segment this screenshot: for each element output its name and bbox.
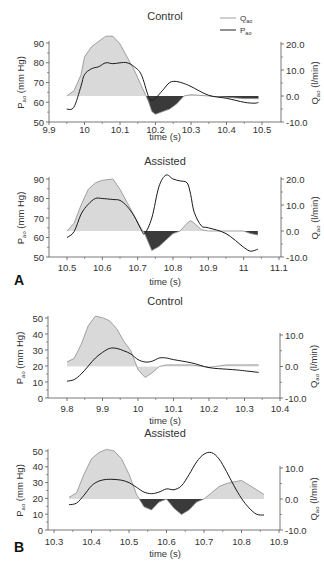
y-tick-label-left: 40: [32, 461, 43, 472]
y-axis-label-right: Qao (l/min): [308, 477, 320, 520]
x-tick-label: 11: [239, 262, 249, 273]
y-tick-label-left: 60: [33, 97, 44, 108]
y-tick-label-left: 10: [32, 377, 43, 388]
y-tick-label-left: 90: [33, 174, 44, 185]
chart-panel-3: Control01020304050-10.00.010.09.89.91010…: [14, 295, 320, 426]
x-tick-label: 10.6: [157, 536, 176, 547]
y-axis-label-right: Qao (l/min): [308, 345, 320, 388]
y-tick-label-left: 40: [32, 329, 43, 340]
legend: QaoPao: [220, 14, 252, 36]
y-tick-label-right: -10.0: [285, 393, 307, 404]
x-tick-label: 10.3: [45, 536, 64, 547]
y-axis-label-left: Pao (mm Hg): [15, 56, 27, 109]
legend-label: Pao: [240, 26, 251, 36]
y-tick-label-right: 0.0: [286, 226, 299, 237]
x-tick-label: 10.4: [271, 403, 290, 414]
x-tick-label: 10.9: [199, 262, 218, 273]
panel-letter-b: B: [14, 539, 24, 555]
x-tick-label: 10.5: [58, 262, 77, 273]
y-axis-label-right: Qao (l/min): [309, 196, 321, 239]
y-tick-label-right: 10.0: [286, 200, 305, 211]
y-tick-label-right: 0.0: [285, 494, 298, 505]
y-tick-label-right: 20.0: [286, 39, 305, 50]
chart-title: Assisted: [144, 427, 186, 439]
x-tick-label: 10.9: [270, 536, 289, 547]
x-tick-label: 10: [133, 403, 144, 414]
y-tick-label-left: 80: [33, 57, 44, 68]
y-tick-label-left: 30: [32, 345, 43, 356]
chart-title: Control: [147, 10, 182, 22]
x-tick-label: 10.5: [120, 536, 139, 547]
x-tick-label: 10.3: [182, 124, 201, 135]
x-tick-label: 10.7: [128, 262, 147, 273]
x-tick-label: 10.3: [235, 403, 254, 414]
y-axis-label-left: Pao (mm Hg): [14, 464, 26, 517]
y-tick-label-left: 80: [33, 193, 44, 204]
y-tick-label-left: 90: [33, 38, 44, 49]
chart-panel-2: Assisted5060708090-10.00.010.020.010.510…: [15, 155, 321, 287]
y-tick-label-right: -10.0: [286, 117, 308, 128]
figure: Control5060708090-10.00.010.020.09.91010…: [0, 0, 324, 567]
panel-letter-a: A: [14, 272, 24, 288]
x-tick-label: 10.7: [195, 536, 214, 547]
y-tick-label-left: 50: [32, 446, 43, 457]
chart-panel-4: Assisted01020304050-10.00.010.010.310.41…: [14, 427, 320, 559]
y-tick-label-left: 0: [38, 393, 43, 404]
x-tick-label: 10.2: [200, 403, 219, 414]
chart-panel-1: Control5060708090-10.00.010.020.09.91010…: [15, 10, 321, 142]
x-tick-label: 11.1: [270, 262, 288, 273]
x-tick-label: 10.4: [82, 536, 101, 547]
x-axis-label: time (s): [149, 131, 181, 142]
y-axis-label-right: Qao (l/min): [309, 61, 321, 104]
y-tick-label-right: 10.0: [286, 65, 305, 76]
y-tick-label-left: 20: [32, 493, 43, 504]
y-axis-label-left: Pao (mm Hg): [15, 192, 27, 245]
x-tick-label: 10.1: [164, 403, 183, 414]
y-tick-label-right: 0.0: [285, 361, 298, 372]
x-tick-label: 10.1: [111, 124, 130, 135]
y-tick-label-right: 0.0: [286, 91, 299, 102]
y-tick-label-right: -10.0: [285, 525, 307, 536]
y-tick-label-left: 0: [38, 525, 43, 536]
y-tick-label-left: 50: [33, 252, 44, 263]
y-tick-label-left: 20: [32, 361, 43, 372]
x-tick-label: 9.8: [60, 403, 73, 414]
y-tick-label-right: -10.0: [286, 252, 308, 263]
x-tick-label: 10.6: [93, 262, 112, 273]
x-tick-label: 10.8: [232, 536, 251, 547]
flow-area-positive: [67, 316, 259, 377]
chart-title: Assisted: [144, 155, 186, 167]
y-axis-label-left: Pao (mm Hg): [14, 332, 26, 385]
x-tick-label: 10.8: [164, 262, 183, 273]
y-tick-label-left: 10: [32, 509, 43, 520]
x-axis-label: time (s): [149, 415, 181, 426]
y-tick-label-left: 30: [32, 477, 43, 488]
x-tick-label: 9.9: [96, 403, 109, 414]
x-tick-label: 10: [79, 124, 90, 135]
y-tick-label-left: 70: [33, 77, 44, 88]
y-tick-label-right: 10.0: [285, 463, 304, 474]
chart-title: Control: [147, 295, 182, 307]
y-tick-label-right: 20.0: [286, 174, 305, 185]
x-axis-label: time (s): [149, 548, 181, 559]
y-tick-label-right: 10.0: [285, 330, 304, 341]
legend-label: Qao: [240, 14, 252, 24]
y-tick-label-left: 50: [32, 313, 43, 324]
y-tick-label-left: 70: [33, 213, 44, 224]
y-tick-label-left: 60: [33, 232, 44, 243]
x-tick-label: 10.4: [217, 124, 236, 135]
x-tick-label: 10.5: [253, 124, 272, 135]
x-tick-label: 9.9: [42, 124, 55, 135]
x-axis-label: time (s): [149, 276, 181, 287]
